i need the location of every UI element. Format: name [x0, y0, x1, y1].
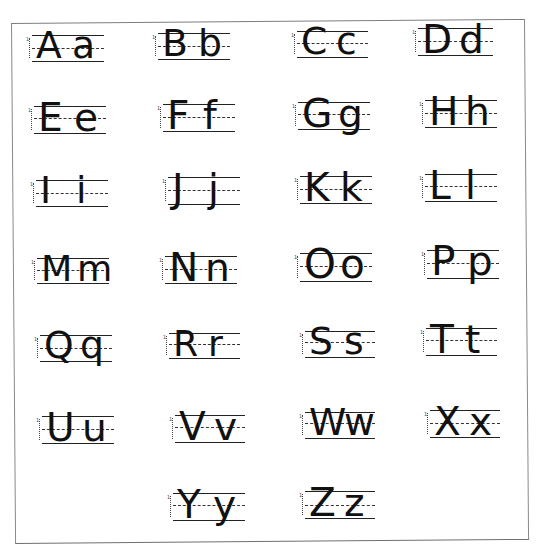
letter-cell-o: Oo1: [300, 253, 372, 281]
lowercase-letter: d: [459, 20, 484, 59]
letter-cell-h: Hh1: [425, 100, 497, 127]
letter-cell-y: Yy1: [173, 493, 245, 520]
uppercase-letter: G: [302, 94, 332, 133]
lowercase-letter: y: [213, 485, 236, 524]
uppercase-letter: Z: [309, 483, 336, 522]
letter-cell-v: Vv1: [175, 415, 245, 442]
letter-cell-a: Aa1: [32, 35, 104, 61]
uppercase-letter: U: [46, 408, 75, 447]
stroke-order-number: 1: [294, 255, 297, 260]
stroke-order-number: 1: [424, 412, 427, 417]
lowercase-letter: p: [467, 241, 493, 282]
lowercase-letter: v: [214, 407, 237, 446]
letter-cell-z: Zz1: [305, 491, 375, 518]
uppercase-letter: K: [304, 168, 330, 207]
uppercase-letter: N: [169, 248, 198, 287]
stroke-order-number: 1: [163, 335, 166, 340]
letter-cell-d: Dd1: [418, 28, 493, 55]
letter-cell-x: Xx1: [430, 410, 500, 437]
uppercase-letter: S: [309, 323, 333, 361]
stroke-order-number: 1: [34, 337, 37, 342]
letter-cell-b: Bb1: [158, 33, 230, 59]
lowercase-letter: s: [344, 323, 364, 361]
uppercase-letter: V: [179, 407, 206, 446]
stroke-order-number: 1: [30, 182, 33, 187]
uppercase-letter: C: [301, 23, 327, 61]
stroke-order-number: 1: [167, 495, 170, 500]
letter-cell-w: Ww1: [305, 412, 375, 438]
letter-cell-q: Qq1: [40, 335, 112, 361]
uppercase-letter: P: [431, 241, 455, 282]
uppercase-letter: J: [172, 169, 184, 208]
stroke-order-number: 1: [294, 178, 297, 183]
uppercase-letter: B: [162, 25, 188, 63]
uppercase-letter: M: [41, 251, 72, 287]
uppercase-letter: A: [36, 27, 62, 65]
lowercase-letter: j: [208, 169, 219, 208]
lowercase-letter: e: [74, 98, 98, 137]
letter-cell-u: Uu1: [42, 416, 114, 443]
stroke-order-number: 1: [291, 33, 294, 38]
letter-cell-n: Nn1: [165, 256, 237, 283]
stroke-order-number: 1: [157, 106, 160, 111]
uppercase-letter: R: [173, 326, 198, 362]
stroke-order-number: 1: [419, 102, 422, 107]
lowercase-letter: l: [465, 166, 476, 205]
letter-cell-s: Ss1: [305, 331, 375, 357]
stroke-order-number: 1: [159, 258, 162, 263]
lowercase-letter: i: [76, 172, 86, 210]
uppercase-letter: H: [429, 92, 458, 131]
lowercase-letter: g: [338, 94, 363, 133]
stroke-order-number: 1: [412, 30, 415, 35]
letter-cell-p: Pp1: [427, 250, 499, 278]
lowercase-letter: m: [77, 251, 112, 287]
uppercase-letter: F: [167, 96, 190, 135]
letter-cell-l: Ll1: [425, 174, 497, 201]
uppercase-letter: O: [304, 244, 336, 285]
lowercase-letter: n: [205, 248, 230, 287]
lowercase-letter: b: [198, 25, 222, 63]
lowercase-letter: w: [344, 404, 375, 442]
stroke-order-number: 1: [419, 176, 422, 181]
stroke-order-number: 1: [36, 418, 39, 423]
lowercase-letter: h: [465, 92, 490, 131]
lowercase-letter: x: [469, 402, 492, 441]
uppercase-letter: D: [422, 20, 452, 59]
letter-cell-f: Ff1: [163, 104, 235, 131]
lowercase-letter: q: [80, 327, 104, 365]
lowercase-letter: k: [340, 168, 363, 207]
letter-cell-e: Ee1: [34, 106, 106, 133]
stroke-order-number: 1: [31, 260, 34, 265]
stroke-order-number: 1: [292, 104, 295, 109]
uppercase-letter: W: [309, 404, 346, 442]
uppercase-letter: Q: [44, 327, 74, 365]
stroke-order-number: 1: [26, 37, 29, 42]
stroke-order-number: 1: [152, 35, 155, 40]
stroke-order-number: 1: [169, 417, 172, 422]
uppercase-letter: X: [434, 402, 461, 441]
uppercase-letter: I: [40, 172, 51, 210]
lowercase-letter: u: [82, 408, 107, 447]
letter-cell-m: Mm1: [37, 258, 109, 283]
stroke-order-number: 1: [299, 333, 302, 338]
lowercase-letter: r: [208, 326, 223, 362]
letter-cell-k: Kk1: [300, 176, 372, 203]
lowercase-letter: a: [72, 27, 95, 65]
stroke-order-number: 1: [299, 493, 302, 498]
letter-cell-c: Cc1: [297, 31, 368, 57]
stroke-order-number: 1: [420, 330, 423, 335]
uppercase-letter: Y: [177, 485, 201, 524]
letter-cell-g: Gg1: [298, 102, 370, 129]
stroke-order-number: 1: [421, 252, 424, 257]
stroke-order-number: 1: [28, 108, 31, 113]
stroke-order-number: 1: [162, 179, 165, 184]
uppercase-letter: L: [429, 166, 451, 205]
uppercase-letter: E: [38, 98, 63, 137]
lowercase-letter: c: [336, 23, 357, 61]
uppercase-letter: T: [430, 320, 454, 359]
lowercase-letter: t: [465, 320, 480, 359]
letter-cell-j: Jj1: [168, 177, 240, 204]
lowercase-letter: o: [340, 244, 365, 285]
lowercase-letter: f: [203, 96, 217, 135]
letter-cell-t: Tt1: [426, 328, 497, 355]
